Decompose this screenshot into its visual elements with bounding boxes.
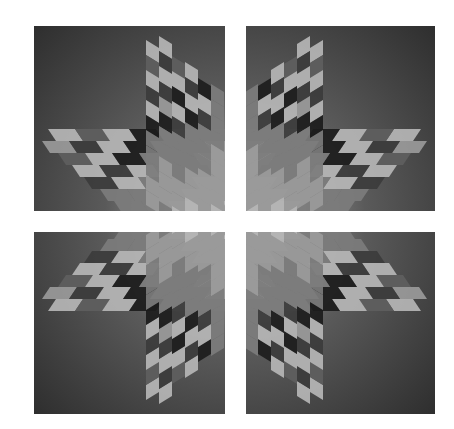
checker-cell bbox=[172, 211, 185, 234]
optical-illusion-artwork bbox=[0, 0, 454, 429]
checker-cell bbox=[185, 212, 198, 235]
checker-cell bbox=[271, 212, 284, 235]
checker-cell bbox=[284, 211, 297, 234]
